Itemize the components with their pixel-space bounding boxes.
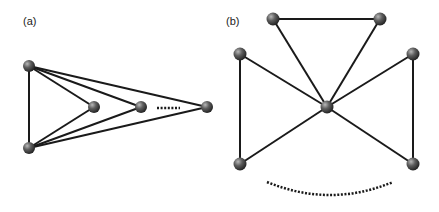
panel-b-label: (b) xyxy=(226,15,239,27)
node xyxy=(23,142,35,154)
panel-a: (a) xyxy=(23,15,213,154)
edge xyxy=(327,107,413,164)
panel-a-edges xyxy=(29,66,207,148)
panel-b-nodes xyxy=(234,13,420,171)
edge xyxy=(327,54,413,107)
panel-a-label: (a) xyxy=(23,15,36,27)
node xyxy=(135,101,147,113)
edge xyxy=(29,107,207,148)
panel-b: (b) xyxy=(226,13,420,196)
edge xyxy=(273,19,327,107)
node xyxy=(374,13,387,26)
ellipsis-arc xyxy=(267,182,393,195)
edge xyxy=(327,19,380,107)
edge xyxy=(240,107,327,164)
node xyxy=(234,48,247,61)
node xyxy=(201,101,213,113)
node xyxy=(407,158,420,171)
edge xyxy=(240,54,327,107)
node xyxy=(23,60,35,72)
node xyxy=(88,101,100,113)
node xyxy=(234,158,247,171)
diagram-canvas: (a) (b) xyxy=(0,0,439,212)
edge xyxy=(29,66,207,107)
node xyxy=(407,48,420,61)
node-center xyxy=(321,101,334,114)
panel-b-edges xyxy=(240,19,413,164)
node xyxy=(267,13,280,26)
